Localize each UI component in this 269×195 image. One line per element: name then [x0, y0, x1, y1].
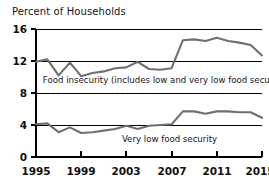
y-tick-labels: 16 12 8 4 0: [12, 23, 27, 163]
series-annotation-very-low-food-security: Very low food security: [122, 134, 217, 144]
x-tick-label-2011: 2011: [202, 165, 231, 177]
line-chart-plot: 16 12 8 4 0 1995 1999 2003 2007 2011 201…: [0, 0, 269, 195]
series-line-food-insecurity: [36, 38, 262, 76]
x-tick-label-1999: 1999: [66, 165, 95, 177]
x-tick-label-2003: 2003: [111, 165, 140, 177]
series-line-very-low-food-security: [36, 111, 262, 133]
y-tick-label-0: 0: [20, 151, 27, 163]
y-tick-label-4: 4: [20, 119, 27, 131]
x-tickmarks: [36, 151, 262, 157]
chart-container: Percent of Households: [0, 0, 269, 195]
x-tick-label-2007: 2007: [157, 165, 186, 177]
y-tick-label-12: 12: [12, 55, 27, 67]
series-annotation-food-insecurity: Food insecurity (includes low and very l…: [43, 75, 269, 85]
y-tick-label-8: 8: [20, 87, 27, 99]
x-tick-label-1995: 1995: [21, 165, 50, 177]
y-tickmarks: [31, 29, 36, 157]
x-tick-labels: 1995 1999 2003 2007 2011 2015: [21, 165, 269, 177]
y-tick-label-16: 16: [12, 23, 27, 35]
x-tick-label-2015: 2015: [245, 165, 269, 177]
